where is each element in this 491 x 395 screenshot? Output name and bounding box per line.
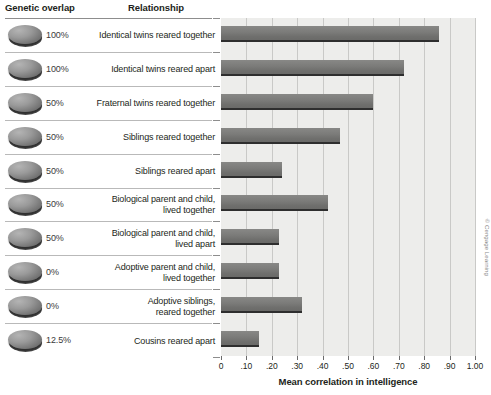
x-axis-title: Mean correlation in intelligence — [221, 376, 475, 387]
genetic-overlap-disk-icon — [8, 93, 42, 115]
genetic-overlap-value: 0% — [46, 301, 59, 311]
x-tick-label: .70 — [393, 361, 405, 371]
x-tick-label: .90 — [444, 361, 456, 371]
relationship-label: Identical twins reared apart — [65, 64, 215, 75]
x-tick-label: 0 — [219, 361, 224, 371]
x-tick — [373, 356, 374, 360]
genetic-overlap-disk-icon — [8, 25, 42, 47]
bar — [221, 263, 279, 279]
row-tick — [213, 323, 220, 324]
genetic-overlap-value: 50% — [46, 132, 64, 142]
x-tick — [272, 356, 273, 360]
bar — [221, 60, 404, 76]
table-row: 100%Identical twins reared together — [5, 18, 212, 52]
x-tick — [246, 356, 247, 360]
row-tick — [213, 357, 220, 358]
row-tick — [213, 188, 220, 189]
bar — [221, 195, 328, 211]
genetic-overlap-disk-icon — [8, 127, 42, 149]
row-tick — [213, 221, 220, 222]
x-tick — [323, 356, 324, 360]
row-tick — [213, 255, 220, 256]
x-tick-label: .50 — [342, 361, 354, 371]
genetic-overlap-disk-icon — [8, 161, 42, 183]
x-tick-label: .10 — [240, 361, 252, 371]
table-row: 50%Biological parent and child,lived apa… — [5, 221, 212, 255]
row-tick — [213, 52, 220, 53]
genetic-overlap-value: 50% — [46, 98, 64, 108]
chart-plot-area — [221, 18, 475, 356]
relationship-label: Biological parent and child,lived apart — [65, 228, 215, 249]
row-tick — [213, 289, 220, 290]
x-tick-label: .40 — [317, 361, 329, 371]
genetic-overlap-disk-icon — [8, 59, 42, 81]
bar — [221, 162, 282, 178]
genetic-overlap-value: 50% — [46, 166, 64, 176]
genetic-overlap-value: 50% — [46, 233, 64, 243]
x-tick — [221, 356, 222, 360]
genetic-overlap-value: 0% — [46, 267, 59, 277]
axis-row-ticks — [213, 0, 221, 357]
gridline — [424, 18, 425, 356]
bar — [221, 229, 279, 245]
bar — [221, 128, 340, 144]
row-tick — [213, 86, 220, 87]
relationship-label: Fraternal twins reared together — [65, 98, 215, 109]
genetic-overlap-disk-icon — [8, 330, 42, 352]
plot-background — [221, 18, 476, 356]
x-tick — [297, 356, 298, 360]
column-header-genetic-overlap: Genetic overlap — [5, 2, 75, 18]
table-row: 0%Adoptive siblings,reared together — [5, 289, 212, 323]
x-tick-label: .80 — [418, 361, 430, 371]
table-row: 50%Siblings reared apart — [5, 154, 212, 188]
row-tick — [213, 18, 220, 19]
x-tick — [348, 356, 349, 360]
relationship-label: Siblings reared apart — [65, 166, 215, 177]
genetic-overlap-disk-icon — [8, 228, 42, 250]
relationship-table: Genetic overlap Relationship 100%Identic… — [0, 0, 217, 357]
relationship-label: Identical twins reared together — [65, 30, 215, 41]
gridline — [475, 18, 476, 356]
bar — [221, 297, 302, 313]
bar — [221, 94, 373, 110]
bar — [221, 331, 259, 347]
x-tick-label: 1.00 — [467, 361, 484, 371]
table-row: 12.5%Cousins reared apart — [5, 323, 212, 357]
x-tick — [475, 356, 476, 360]
table-row: 50%Siblings reared together — [5, 120, 212, 154]
x-tick — [450, 356, 451, 360]
chart-figure: Genetic overlap Relationship 100%Identic… — [0, 0, 491, 395]
table-row: 50%Fraternal twins reared together — [5, 86, 212, 120]
relationship-label: Siblings reared together — [65, 132, 215, 143]
x-tick-label: .60 — [367, 361, 379, 371]
genetic-overlap-disk-icon — [8, 296, 42, 318]
x-tick — [424, 356, 425, 360]
bar — [221, 26, 439, 42]
x-tick-label: .30 — [291, 361, 303, 371]
gridline — [450, 18, 451, 356]
genetic-overlap-disk-icon — [8, 194, 42, 216]
genetic-overlap-disk-icon — [8, 262, 42, 284]
relationship-label: Adoptive siblings,reared together — [65, 296, 215, 317]
column-header-relationship: Relationship — [100, 2, 212, 18]
table-row: 50%Biological parent and child,lived tog… — [5, 188, 212, 222]
genetic-overlap-value: 50% — [46, 199, 64, 209]
relationship-label: Biological parent and child,lived togeth… — [65, 194, 215, 215]
x-tick — [399, 356, 400, 360]
table-row: 100%Identical twins reared apart — [5, 52, 212, 86]
credit-text: © Cengage Learning — [484, 219, 490, 276]
row-tick — [213, 154, 220, 155]
x-tick-label: .20 — [266, 361, 278, 371]
relationship-label: Cousins reared apart — [65, 336, 215, 347]
row-tick — [213, 120, 220, 121]
relationship-label: Adoptive parent and child,lived together — [65, 262, 215, 283]
table-row: 0%Adoptive parent and child,lived togeth… — [5, 255, 212, 289]
